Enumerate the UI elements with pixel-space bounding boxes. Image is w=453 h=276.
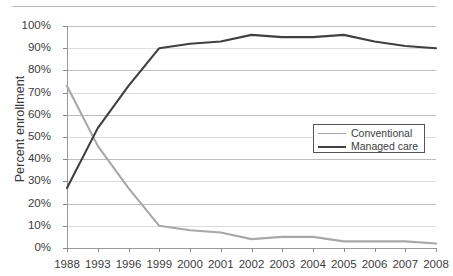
chart-legend: Conventional Managed care <box>313 124 425 153</box>
legend-entry-conventional: Conventional <box>318 127 412 140</box>
series-line-managed-care <box>67 35 436 188</box>
y-tick-label: 30% <box>0 174 51 186</box>
y-tick-label: 0% <box>0 241 51 253</box>
y-tick-label: 10% <box>0 219 51 231</box>
x-tick-mark <box>344 248 345 252</box>
x-tick-mark <box>221 248 222 252</box>
x-tick-label: 2008 <box>416 258 453 270</box>
x-tick-mark <box>313 248 314 252</box>
x-tick-mark <box>252 248 253 252</box>
x-tick-mark <box>375 248 376 252</box>
x-tick-mark <box>190 248 191 252</box>
y-tick-label: 60% <box>0 108 51 120</box>
x-tick-mark <box>282 248 283 252</box>
series-line-conventional <box>67 86 436 244</box>
legend-swatch-managed-care <box>318 146 346 148</box>
y-tick-label: 90% <box>0 41 51 53</box>
x-tick-mark <box>129 248 130 252</box>
x-tick-mark <box>98 248 99 252</box>
legend-entry-managed-care: Managed care <box>318 140 418 153</box>
x-tick-mark <box>159 248 160 252</box>
y-tick-label: 80% <box>0 63 51 75</box>
x-tick-mark <box>405 248 406 252</box>
y-tick-label: 40% <box>0 152 51 164</box>
x-tick-mark <box>67 248 68 252</box>
y-tick-label: 50% <box>0 130 51 142</box>
legend-label-managed-care: Managed care <box>351 140 418 153</box>
y-tick-label: 20% <box>0 197 51 209</box>
y-tick-label: 70% <box>0 86 51 98</box>
legend-label-conventional: Conventional <box>351 127 412 140</box>
legend-swatch-conventional <box>318 133 346 134</box>
top-divider-rule <box>12 6 436 7</box>
y-tick-label: 100% <box>0 19 51 31</box>
x-tick-mark <box>436 248 437 252</box>
